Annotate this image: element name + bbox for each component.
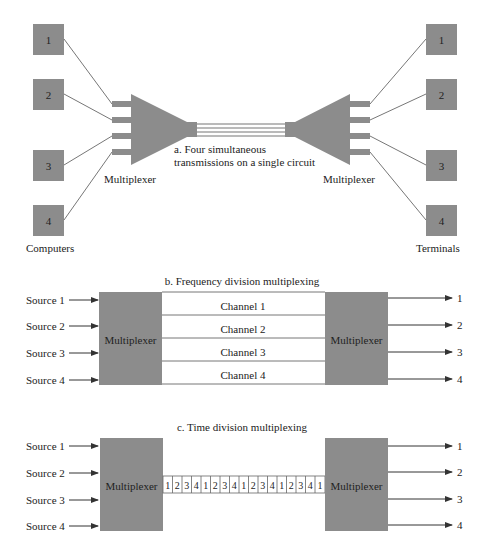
computer-2-label: 2 (46, 89, 52, 101)
fdm-output-1: 1 (457, 292, 463, 304)
channel-2: Channel 2 (221, 323, 266, 335)
fdm-output-3: 3 (457, 346, 463, 358)
terminal-connector-lines (370, 39, 426, 220)
time-slot: 1 (241, 480, 246, 491)
terminal-2-label: 2 (439, 89, 445, 101)
left-multiplexer-label: Multiplexer (104, 173, 156, 185)
channel-4: Channel 4 (221, 369, 266, 381)
terminals-label: Terminals (416, 242, 460, 254)
computer-2: 2 (33, 79, 64, 110)
fdm-output-arrows (388, 298, 452, 379)
tdm-output-arrows (388, 446, 452, 525)
single-circuit-lines (197, 124, 285, 136)
fdm-source-4: Source 4 (26, 374, 65, 386)
time-slot: 3 (222, 480, 227, 491)
time-slot: 4 (232, 480, 237, 491)
terminal-4-label: 4 (439, 215, 445, 227)
time-slot: 1 (318, 480, 323, 491)
tdm-source-1: Source 1 (26, 440, 65, 452)
tdm-output-1: 1 (457, 440, 463, 452)
terminal-3: 3 (426, 150, 457, 181)
time-slot: 1 (165, 480, 170, 491)
terminal-4: 4 (426, 205, 457, 236)
panel-c-title: c. Time division multiplexing (177, 421, 308, 433)
time-slot: 2 (251, 480, 256, 491)
computer-3: 3 (33, 150, 64, 181)
fdm-source-1: Source 1 (26, 294, 65, 306)
channel-3: Channel 3 (221, 346, 266, 358)
time-slot: 4 (194, 480, 199, 491)
panel-c: c. Time division multiplexing Source 1 S… (26, 421, 463, 532)
channel-1: Channel 1 (221, 300, 266, 312)
terminal-1: 1 (426, 24, 457, 55)
panel-a: 1 2 3 4 Computers Multip (26, 24, 460, 254)
terminal-2: 2 (426, 79, 457, 110)
time-slot: 4 (308, 480, 313, 491)
computers-label: Computers (26, 242, 74, 254)
caption-a-line1: a. Four simultaneous (174, 143, 266, 155)
tdm-output-3: 3 (457, 493, 463, 505)
computer-4: 4 (33, 205, 64, 236)
fdm-output-4: 4 (457, 373, 463, 385)
time-slot: 3 (184, 480, 189, 491)
multiplexing-diagram: 1 2 3 4 Computers Multip (0, 0, 485, 557)
right-multiplexer-triangle (285, 94, 370, 165)
computer-4-label: 4 (46, 215, 52, 227)
time-slot: 3 (298, 480, 303, 491)
time-slot: 2 (213, 480, 218, 491)
panel-b-title: b. Frequency division multiplexing (165, 275, 320, 287)
tdm-left-multiplexer-label: Multiplexer (106, 480, 158, 492)
time-slot: 2 (175, 480, 180, 491)
tdm-source-4: Source 4 (26, 520, 65, 532)
tdm-source-2: Source 2 (26, 467, 65, 479)
tdm-output-2: 2 (457, 466, 463, 478)
tdm-right-multiplexer-label: Multiplexer (331, 480, 383, 492)
fdm-output-2: 2 (457, 319, 463, 331)
terminal-1-label: 1 (439, 34, 445, 46)
fdm-source-2: Source 2 (26, 320, 65, 332)
computer-1-label: 1 (46, 34, 52, 46)
tdm-input-arrows (69, 446, 98, 526)
computer-1: 1 (33, 24, 64, 55)
time-slot: 3 (260, 480, 265, 491)
right-multiplexer-label: Multiplexer (323, 173, 375, 185)
tdm-source-3: Source 3 (26, 494, 65, 506)
fdm-left-multiplexer-label: Multiplexer (105, 334, 157, 346)
time-slot: 1 (203, 480, 208, 491)
tdm-output-4: 4 (457, 519, 463, 531)
tdm-slot-strip: 1 2 3 4 1 2 3 4 1 2 3 4 1 2 3 4 1 (163, 476, 325, 493)
panel-b: b. Frequency division multiplexing Sourc… (26, 275, 463, 386)
fdm-right-multiplexer-label: Multiplexer (331, 334, 383, 346)
computer-3-label: 3 (46, 160, 52, 172)
time-slot: 4 (270, 480, 275, 491)
fdm-source-3: Source 3 (26, 347, 65, 359)
fdm-input-arrows (69, 300, 98, 380)
computer-connector-lines (64, 39, 112, 220)
caption-a-line2: transmissions on a single circuit (174, 156, 315, 168)
time-slot: 2 (289, 480, 294, 491)
terminal-3-label: 3 (439, 160, 445, 172)
time-slot: 1 (279, 480, 284, 491)
